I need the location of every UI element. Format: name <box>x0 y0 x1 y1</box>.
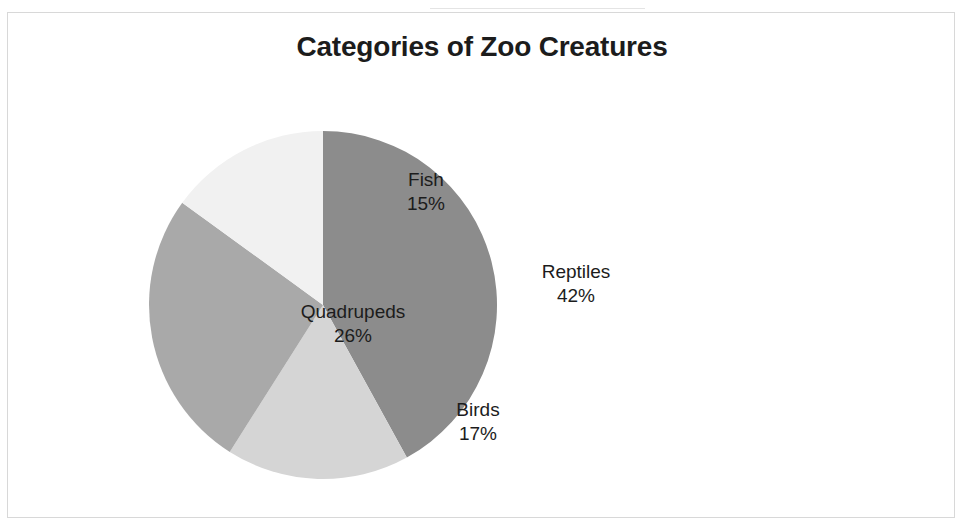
pie-chart-graphic <box>137 119 509 491</box>
scan-artifact-line <box>430 8 645 9</box>
pie-chart-plot-area: Reptiles 42% Birds 17% Quadrupeds 26% Fi… <box>8 13 956 519</box>
chart-frame: Categories of Zoo Creatures Reptiles 42%… <box>7 12 955 518</box>
pie-slice-label-reptiles-name: Reptiles <box>506 260 646 284</box>
pie-slice-label-reptiles-value: 42% <box>506 284 646 308</box>
pie-slice-label-reptiles: Reptiles 42% <box>506 260 646 309</box>
pie-slice-group <box>149 131 497 479</box>
